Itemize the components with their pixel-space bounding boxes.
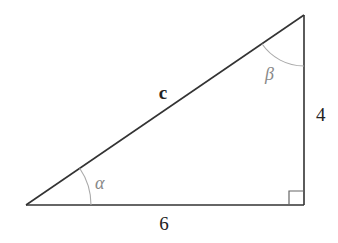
alpha-angle-label: α [95, 173, 105, 193]
horizontal-side-label: 6 [159, 213, 169, 234]
right-triangle-diagram: c 4 6 α β [0, 0, 338, 243]
vertical-side-label: 4 [316, 104, 326, 125]
alpha-angle-arc [80, 168, 91, 205]
hypotenuse-label: c [159, 82, 167, 103]
beta-angle-label: β [264, 64, 274, 84]
hypotenuse-line [26, 15, 304, 205]
right-angle-marker [289, 191, 304, 205]
beta-angle-arc [262, 44, 304, 66]
